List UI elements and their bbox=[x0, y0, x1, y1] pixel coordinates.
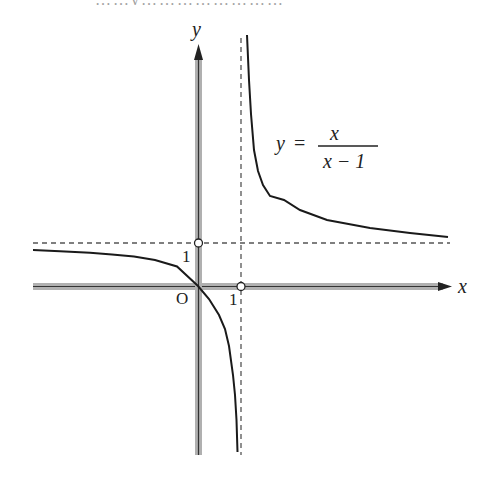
y-tick-one-label: 1 bbox=[182, 247, 191, 266]
x-axis-arrow-icon bbox=[438, 282, 452, 291]
y-axis bbox=[194, 44, 203, 455]
open-point-0-1 bbox=[195, 239, 203, 247]
graph-canvas: y x O 1 1 y = x x − 1 bbox=[0, 0, 489, 480]
y-axis-arrow-icon bbox=[194, 44, 203, 60]
function-lhs: y bbox=[274, 132, 285, 155]
y-axis-label: y bbox=[190, 18, 201, 41]
function-label: y = x x − 1 bbox=[274, 122, 378, 172]
function-denominator: x − 1 bbox=[322, 150, 365, 172]
x-axis-label: x bbox=[457, 275, 467, 297]
function-equals: = bbox=[294, 132, 305, 154]
origin-label: O bbox=[176, 289, 188, 308]
curve-left-branch bbox=[33, 250, 238, 452]
function-numerator: x bbox=[329, 122, 339, 144]
open-point-1-0 bbox=[237, 283, 245, 291]
x-tick-one-label: 1 bbox=[229, 290, 238, 309]
